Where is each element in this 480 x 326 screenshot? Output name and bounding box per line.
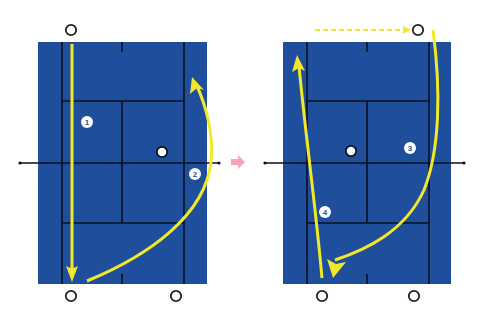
step-badge-4: 4 bbox=[319, 206, 331, 218]
player-marker bbox=[317, 291, 327, 301]
ball bbox=[157, 147, 167, 157]
net-post-left bbox=[18, 161, 21, 164]
net-post-left bbox=[263, 161, 266, 164]
arrowhead-dashed bbox=[403, 26, 411, 34]
step-badge-2: 2 bbox=[189, 168, 201, 180]
player-marker bbox=[409, 291, 419, 301]
svg-text:4: 4 bbox=[323, 208, 328, 217]
net-post-right bbox=[217, 161, 220, 164]
court-panel-right: 3 4 bbox=[263, 25, 465, 301]
player-marker bbox=[66, 291, 76, 301]
step-badge-3: 3 bbox=[404, 142, 416, 154]
player-marker bbox=[66, 25, 76, 35]
net-post-right bbox=[462, 161, 465, 164]
ball bbox=[346, 146, 356, 156]
player-marker bbox=[413, 25, 423, 35]
tennis-diagram: 1 2 bbox=[0, 0, 480, 326]
court-panel-left: 1 2 bbox=[18, 25, 220, 301]
svg-text:3: 3 bbox=[408, 144, 413, 153]
player-marker bbox=[171, 291, 181, 301]
svg-text:2: 2 bbox=[193, 170, 198, 179]
step-badge-1: 1 bbox=[81, 116, 93, 128]
right-arrow-icon bbox=[231, 155, 245, 169]
svg-text:1: 1 bbox=[85, 118, 90, 127]
